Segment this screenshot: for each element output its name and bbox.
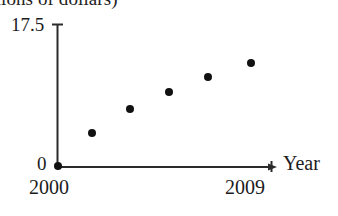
y-axis-zero-label: 0 xyxy=(37,154,47,174)
data-point-group xyxy=(54,59,255,170)
data-point xyxy=(247,59,255,67)
data-point xyxy=(165,88,173,96)
data-point xyxy=(54,162,62,170)
y-axis-max-label: 17.5 xyxy=(11,15,44,35)
x-axis-title: Year xyxy=(283,153,320,174)
data-point xyxy=(126,105,134,113)
data-point xyxy=(88,129,96,137)
x-axis-start-label: 2000 xyxy=(29,177,69,198)
figure-container: millions of dollars) 17.5 0 2000 2009 Ye… xyxy=(0,0,338,216)
data-point xyxy=(204,73,212,81)
x-axis-end-label: 2009 xyxy=(225,177,265,198)
